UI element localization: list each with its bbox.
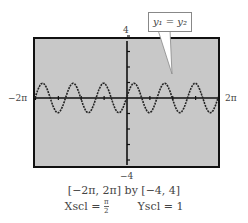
- xscl-denominator: 2: [104, 207, 109, 215]
- xmax-label: 2π: [225, 93, 237, 103]
- window-caption: [−2π, 2π] by [−4, 4]: [0, 184, 248, 197]
- xscl-numerator: π: [104, 198, 109, 207]
- xscl-fraction: π 2: [104, 198, 109, 215]
- callout-label: y₁ = y₂: [148, 12, 192, 32]
- scale-caption: Xscl = π 2 Yscl = 1: [0, 198, 248, 215]
- xmin-label: −2π: [8, 93, 27, 103]
- ymin-label: −4: [120, 171, 133, 181]
- xscl-label: Xscl =: [65, 200, 101, 213]
- ymax-label: 4: [123, 25, 129, 35]
- yscl-label: Yscl = 1: [138, 200, 184, 213]
